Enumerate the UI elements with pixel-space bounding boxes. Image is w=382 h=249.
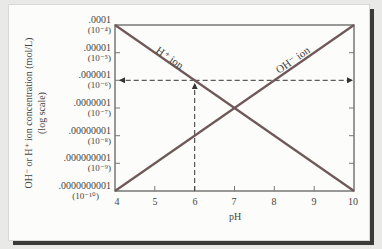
x-tick-7: 7 bbox=[224, 196, 244, 207]
y-tick-1e-6: .000001(10⁻⁶) bbox=[79, 69, 112, 91]
oh-ion-label: OH⁻ ion bbox=[273, 43, 312, 75]
y-tick-1e-5: .00001(10⁻⁵) bbox=[84, 42, 112, 64]
y-tick-1e-8: .00000001(10⁻⁸) bbox=[69, 125, 112, 147]
x-tick-6: 6 bbox=[185, 196, 205, 207]
h-ion-label: H⁺ ion bbox=[154, 44, 187, 72]
x-tick-5: 5 bbox=[145, 196, 165, 207]
x-axis-label: pH bbox=[225, 211, 245, 222]
x-tick-8: 8 bbox=[264, 196, 284, 207]
y-tick-1e-4: .0001(10⁻⁴) bbox=[88, 14, 111, 36]
y-tick-1e-10: .0000000001(10⁻¹⁰) bbox=[59, 180, 112, 202]
y-tick-1e-9: .000000001(10⁻⁹) bbox=[64, 152, 112, 174]
y-axis-label: OH⁻ or H⁺ ion concentration (mol/L) (log… bbox=[22, 28, 56, 198]
x-tick-4: 4 bbox=[107, 196, 127, 207]
y-axis-label-line2: (log scale) bbox=[35, 28, 48, 198]
x-tick-9: 9 bbox=[304, 196, 324, 207]
y-axis-label-line1: OH⁻ or H⁺ ion concentration (mol/L) bbox=[22, 28, 35, 198]
x-tick-10: 10 bbox=[343, 196, 363, 207]
y-tick-1e-7: .0000001(10⁻⁷) bbox=[74, 97, 112, 119]
chart-plot: H⁺ ion OH⁻ ion bbox=[0, 0, 382, 249]
